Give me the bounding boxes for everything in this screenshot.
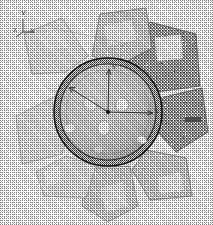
triad-label-x: X <box>30 28 35 35</box>
blade-3 <box>132 150 192 200</box>
edge-artifact-mark <box>185 117 201 122</box>
triad-label-y: Y <box>21 10 26 17</box>
drawing-canvas: Y X Y Z X <box>0 0 213 225</box>
triad-label-z: Z <box>13 27 17 34</box>
center-axis-label-x: X <box>154 108 158 114</box>
triad-axes-icon <box>12 10 58 42</box>
center-axis-label-y: Y <box>112 64 116 70</box>
coordinate-axis-triad: Y Z X <box>12 10 58 42</box>
